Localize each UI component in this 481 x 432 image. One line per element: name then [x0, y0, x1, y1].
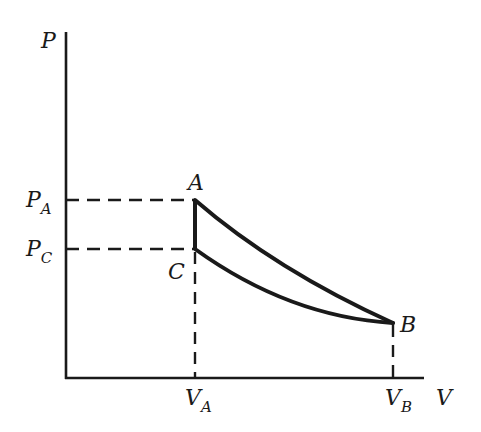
point-a-label: A: [186, 170, 204, 195]
x-axis-label: V: [436, 385, 454, 410]
vb-tick-label: VB: [385, 385, 412, 416]
ab-upper-curve: [195, 200, 393, 323]
y-axis-label: P: [40, 28, 57, 53]
pa-tick-label: PA: [25, 187, 52, 218]
cb-lower-curve: [195, 249, 393, 323]
point-c-label: C: [168, 259, 185, 284]
point-b-label: B: [399, 312, 416, 337]
va-tick-label: VA: [185, 385, 212, 416]
pv-diagram: P V A B C PA PC VA VB: [0, 0, 481, 432]
pc-tick-label: PC: [25, 236, 53, 267]
